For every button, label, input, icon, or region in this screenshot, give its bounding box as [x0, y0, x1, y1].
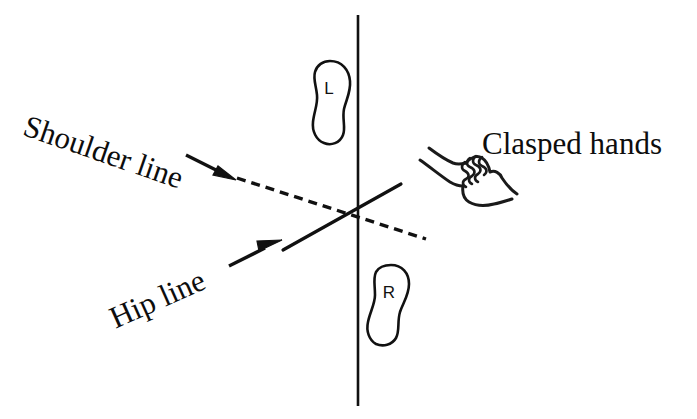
left-foot-outline: L — [313, 61, 350, 144]
left-foot-letter: L — [324, 79, 333, 98]
shoulder-line-arrow — [186, 155, 236, 180]
body-alignment-diagram: L R Shoulder line Hip line Clasped hands — [0, 0, 697, 419]
hip-line-arrow — [229, 240, 282, 266]
right-foot-outline: R — [367, 265, 409, 345]
clasped-hands-label: Clasped hands — [482, 128, 662, 159]
hip-line-solid — [283, 184, 401, 250]
right-foot-letter: R — [383, 283, 395, 302]
diagram-canvas: L R — [0, 0, 697, 419]
